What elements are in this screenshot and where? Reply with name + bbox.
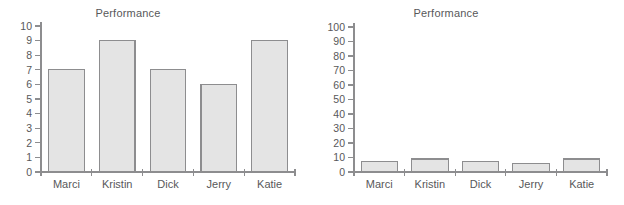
x-axis-label-marci: Marci (53, 178, 80, 190)
plot-area-right: 1009080706050403020100MarciKristinDickJe… (312, 0, 624, 205)
x-axis-label-jerry: Jerry (519, 178, 544, 190)
y-axis-tick-label: 1 (26, 151, 32, 163)
x-axis-label-dick: Dick (470, 178, 492, 190)
y-axis-tick-label: 10 (333, 151, 345, 163)
y-axis-tick-label: 9 (26, 34, 32, 46)
bar-dick (150, 70, 186, 172)
bar-jerry (201, 84, 237, 172)
bar-kristin (99, 41, 135, 172)
x-axis-label-katie: Katie (569, 178, 594, 190)
y-axis-tick-label: 40 (333, 108, 345, 120)
y-axis-tick-label: 50 (333, 93, 345, 105)
y-axis-tick-label: 8 (26, 49, 32, 61)
y-axis-tick-label: 100 (327, 21, 345, 33)
bar-chart-right: Performance 1009080706050403020100MarciK… (312, 0, 624, 205)
bar-kristin (412, 159, 448, 172)
y-axis-tick-label: 30 (333, 122, 345, 134)
plot-area-left: 109876543210MarciKristinDickJerryKatie (0, 0, 312, 205)
x-axis-label-marci: Marci (366, 178, 393, 190)
bar-marci (361, 162, 397, 172)
y-axis-tick-label: 3 (26, 122, 32, 134)
y-axis-tick-label: 20 (333, 137, 345, 149)
bar-chart-left: Performance 109876543210MarciKristinDick… (0, 0, 312, 205)
y-axis-tick-label: 90 (333, 35, 345, 47)
y-axis-tick-label: 5 (26, 93, 32, 105)
x-axis-label-kristin: Kristin (102, 178, 133, 190)
x-axis-label-katie: Katie (257, 178, 282, 190)
y-axis-tick-label: 0 (26, 166, 32, 178)
chart-page: Performance 109876543210MarciKristinDick… (0, 0, 624, 205)
y-axis-tick-label: 0 (339, 166, 345, 178)
y-axis-tick-label: 4 (26, 107, 32, 119)
bar-katie (252, 41, 288, 172)
y-axis-tick-label: 6 (26, 78, 32, 90)
bar-jerry (513, 163, 549, 172)
y-axis-tick-label: 10 (20, 20, 32, 32)
bar-katie (563, 159, 599, 172)
y-axis-tick-label: 60 (333, 79, 345, 91)
bar-marci (49, 70, 85, 172)
x-axis-label-kristin: Kristin (415, 178, 446, 190)
x-axis-label-dick: Dick (157, 178, 179, 190)
bar-dick (462, 162, 498, 172)
x-axis-label-jerry: Jerry (207, 178, 232, 190)
y-axis-tick-label: 70 (333, 64, 345, 76)
y-axis-tick-label: 2 (26, 137, 32, 149)
y-axis-tick-label: 80 (333, 50, 345, 62)
y-axis-tick-label: 7 (26, 64, 32, 76)
